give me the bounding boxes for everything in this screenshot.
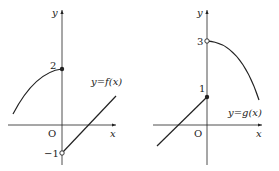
graph-g: y x O 3 1 y=g(x) bbox=[153, 7, 262, 165]
diagram: y x O 2 −1 y=f(x) y x O 3 1 y=g(x) bbox=[0, 0, 279, 171]
open-point-icon bbox=[205, 39, 209, 43]
filled-point-icon bbox=[205, 95, 209, 99]
function-label-g: y=g(x) bbox=[227, 107, 262, 118]
tick-label-3: 3 bbox=[197, 36, 203, 47]
tick-label-1: 1 bbox=[199, 83, 205, 94]
origin-label: O bbox=[48, 128, 56, 139]
filled-point-icon bbox=[60, 67, 64, 71]
graph-f: y x O 2 −1 y=f(x) bbox=[8, 7, 122, 165]
g-curve-right bbox=[207, 41, 259, 100]
tick-label-minus-1: −1 bbox=[44, 148, 59, 159]
origin-label: O bbox=[194, 128, 202, 139]
f-curve-left bbox=[13, 69, 62, 114]
y-axis-label: y bbox=[51, 7, 58, 18]
function-label-f: y=f(x) bbox=[90, 76, 122, 87]
x-axis-label: x bbox=[256, 128, 262, 139]
open-point-icon bbox=[60, 151, 64, 155]
tick-label-2: 2 bbox=[50, 60, 56, 71]
f-line-right bbox=[62, 96, 116, 153]
x-axis-label: x bbox=[110, 128, 116, 139]
y-axis-label: y bbox=[196, 7, 203, 18]
